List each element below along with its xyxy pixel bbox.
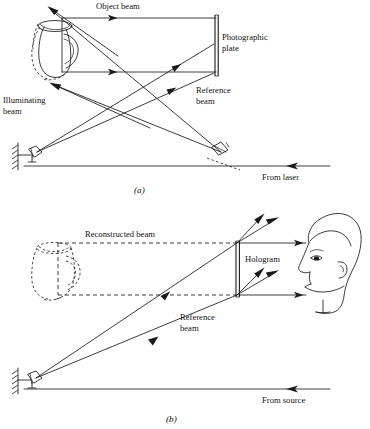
viewing-rays: [239, 240, 306, 298]
label-reference-beam-a-line1: Reference: [196, 85, 231, 95]
label-illuminating-beam-line1: Illuminating: [3, 95, 46, 105]
label-object-beam: Object beam: [96, 1, 140, 11]
label-reference-beam-b-line1: Reference: [180, 312, 215, 322]
caption-a: (a): [134, 185, 145, 195]
label-from-laser: From laser: [262, 172, 299, 182]
panel-b: Reconstructed beam Hologram Reference be…: [12, 213, 361, 424]
illuminating-beam-rays: [50, 9, 221, 152]
label-from-source: From source: [262, 395, 305, 405]
holography-figure: Object beam Photographic plate Reference…: [0, 0, 370, 429]
reconstructed-beam-rays: [58, 243, 237, 295]
label-reference-beam-a-line2: beam: [196, 96, 215, 106]
label-hologram: Hologram: [245, 254, 280, 264]
reference-beam-rays-b: [36, 243, 237, 378]
diffracted-rays-top: [237, 214, 279, 243]
label-photographic-plate-line1: Photographic: [222, 32, 268, 42]
diffracted-rays-bottom: [237, 268, 279, 295]
caption-b: (b): [166, 414, 177, 424]
label-photographic-plate-line2: plate: [222, 43, 239, 53]
mirror-a-left: [28, 146, 42, 162]
beamsplitter-axis-dash: [207, 158, 240, 170]
panel-a: Object beam Photographic plate Reference…: [3, 1, 330, 195]
object-beam-rays: [62, 15, 216, 75]
photographic-plate: [215, 15, 218, 76]
object-pitcher-a: [32, 21, 78, 80]
wall-mount-b: [12, 368, 31, 394]
label-reconstructed-beam: Reconstructed beam: [85, 229, 155, 239]
illuminating-beam-arrow: [49, 83, 150, 128]
mirror-b: [28, 371, 42, 388]
reference-beam-rays: [37, 44, 214, 152]
label-reference-beam-b-line2: beam: [180, 323, 199, 333]
hologram-plate: [236, 241, 239, 297]
label-illuminating-beam-line2: beam: [3, 106, 22, 116]
figure-canvas: Object beam Photographic plate Reference…: [0, 0, 370, 429]
observer-head: [299, 213, 361, 313]
beamsplitter-a: [212, 142, 229, 155]
virtual-object-pitcher-b: [32, 243, 80, 301]
